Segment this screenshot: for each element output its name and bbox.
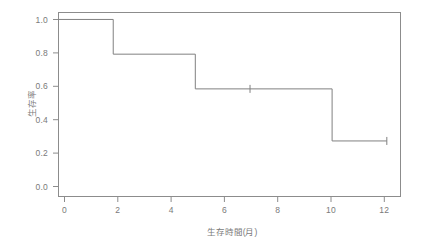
- y-tick-label-0.4: 0.4: [20, 115, 48, 124]
- x-tick-label-6: 6: [222, 206, 227, 215]
- plot-box-border: [59, 13, 401, 197]
- x-tick-label-10: 10: [326, 206, 336, 215]
- x-tick-label-2: 2: [115, 206, 120, 215]
- y-axis-title: 生存率: [28, 90, 37, 117]
- x-axis-title: 生存時間(月): [207, 228, 258, 237]
- censor-marks-group: [250, 85, 387, 145]
- y-axis-ticks: [53, 20, 59, 187]
- survival-step-line: [59, 19, 387, 141]
- x-axis-ticks: [65, 197, 385, 203]
- y-tick-label-0.2: 0.2: [20, 149, 48, 158]
- x-tick-label-8: 8: [275, 206, 280, 215]
- survival-curve-figure: 1.0 0.8 0.6 0.4 0.2 0.0 0 2 4 6 8 10 12 …: [0, 0, 424, 250]
- y-tick-label-0.0: 0.0: [20, 182, 48, 191]
- x-tick-label-4: 4: [169, 206, 174, 215]
- x-tick-label-12: 12: [379, 206, 389, 215]
- y-tick-label-1.0: 1.0: [20, 15, 48, 24]
- x-tick-label-0: 0: [62, 206, 67, 215]
- y-tick-label-0.8: 0.8: [20, 49, 48, 58]
